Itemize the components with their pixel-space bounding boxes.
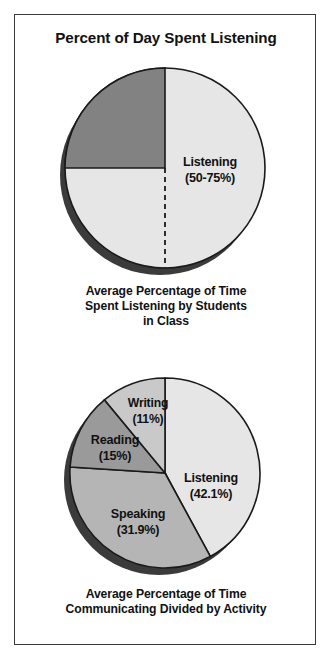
- figure-frame: Percent of Day Spent Listening Listening: [14, 14, 316, 645]
- pie-2-label-reading-name: Reading: [91, 433, 139, 447]
- caption-2-line-2: Communicating Divided by Activity: [15, 602, 317, 617]
- pie-2-label-speaking-name: Speaking: [111, 507, 165, 521]
- caption-1-line-2: Spent Listening by Students: [15, 299, 317, 314]
- pie-chart-day-listening: Listening (50-75%): [15, 63, 317, 278]
- caption-day-listening: Average Percentage of Time Spent Listeni…: [15, 284, 317, 329]
- chart-block-day-listening: Listening (50-75%) Average Percentage of…: [15, 63, 317, 329]
- chart-block-communicating-activity: Listening (42.1%) Speaking (31.9%) Readi…: [15, 371, 317, 617]
- pie-2-label-writing-name: Writing: [128, 396, 168, 410]
- pie-2-label-speaking-value: (31.9%): [117, 523, 160, 537]
- caption-1-line-3: in Class: [15, 314, 317, 329]
- pie-2-svg: Listening (42.1%) Speaking (31.9%) Readi…: [55, 371, 277, 579]
- page-title: Percent of Day Spent Listening: [15, 29, 317, 46]
- pie-1-svg: Listening (50-75%): [50, 63, 282, 278]
- pie-2-label-reading-value: (15%): [99, 449, 132, 463]
- caption-communicating-activity: Average Percentage of Time Communicating…: [15, 587, 317, 617]
- pie-2-label-listening-value: (42.1%): [190, 487, 233, 501]
- caption-2-line-1: Average Percentage of Time: [15, 587, 317, 602]
- pie-2-label-writing-value: (11%): [133, 412, 164, 426]
- pie-1-label-listening-value: (50-75%): [185, 171, 235, 185]
- pie-1-slice-unshaded-quarter: [65, 68, 165, 168]
- caption-1-line-1: Average Percentage of Time: [15, 284, 317, 299]
- pie-chart-communicating-activity: Listening (42.1%) Speaking (31.9%) Readi…: [15, 371, 317, 579]
- pie-2-label-listening-name: Listening: [184, 471, 238, 485]
- pie-1-label-listening-name: Listening: [183, 155, 237, 169]
